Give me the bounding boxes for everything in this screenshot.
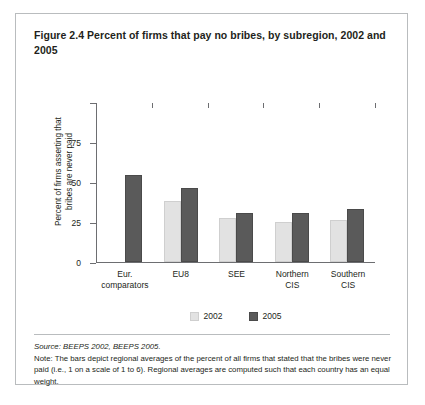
x-label-line2: CIS <box>285 280 299 290</box>
bar-2002-southern-cis <box>330 220 347 262</box>
legend-swatch-2005 <box>249 312 258 321</box>
x-axis-line <box>96 262 375 263</box>
y-tick-label-50: 50 <box>72 178 81 188</box>
figure-notes: Source: BEEPS 2002, BEEPS 2005. Note: Th… <box>34 341 392 387</box>
chart-plot-area: Percent of firms asserting that bribes a… <box>34 89 392 319</box>
bar-group-southern-cis <box>330 103 364 262</box>
bar-2005-northern-cis <box>292 213 309 262</box>
x-tick-0 <box>96 103 97 108</box>
y-tick-0: 0 <box>90 263 96 264</box>
y-tick-label-25: 25 <box>72 218 81 228</box>
x-tick-3 <box>263 103 264 108</box>
figure-title: Figure 2.4 Percent of firms that pay no … <box>34 28 389 58</box>
x-label-line1: Southern <box>331 269 366 279</box>
x-axis-labels: Eur. comparators EU8 SEE Northern CIS So… <box>97 269 376 291</box>
x-tick-4 <box>319 103 320 108</box>
figure-container: Figure 2.4 Percent of firms that pay no … <box>15 13 408 385</box>
bar-2002-see <box>219 218 236 261</box>
bar-2002-northern-cis <box>275 222 292 262</box>
source-text: Source: BEEPS 2002, BEEPS 2005. <box>34 341 392 353</box>
x-label-line1: EU8 <box>172 269 189 279</box>
bar-2002-eu8 <box>164 201 181 262</box>
bar-group-northern-cis <box>275 103 309 262</box>
y-tick-25: 25 <box>90 223 96 224</box>
bar-group-see <box>219 103 253 262</box>
note-text: Note: The bars depict regional averages … <box>34 353 392 388</box>
bar-2005-eur-comparators <box>125 175 142 261</box>
bar-2005-see <box>236 213 253 262</box>
x-label-northern-cis: Northern CIS <box>264 269 320 291</box>
y-tick-label-0: 0 <box>76 258 81 268</box>
legend-item-2005: 2005 <box>249 311 282 321</box>
x-label-eu8: EU8 <box>153 269 209 291</box>
x-label-see: SEE <box>209 269 265 291</box>
legend-swatch-2002 <box>190 312 199 321</box>
chart-axes: 0 25 50 75 <box>96 103 375 263</box>
x-label-line2: comparators <box>101 280 148 290</box>
x-tick-5 <box>375 103 376 108</box>
bar-2005-southern-cis <box>347 209 364 262</box>
y-tick-label-75: 75 <box>72 138 81 148</box>
chart-legend: 2002 2005 <box>96 311 375 321</box>
legend-label-2005: 2005 <box>263 311 282 321</box>
legend-item-2002: 2002 <box>190 311 223 321</box>
x-label-eur-comparators: Eur. comparators <box>97 269 153 291</box>
x-label-line1: SEE <box>228 269 245 279</box>
y-axis-title-line1: Percent of firms asserting that <box>54 117 63 226</box>
y-tick-50: 50 <box>90 183 96 184</box>
x-tick-2 <box>208 103 209 108</box>
bar-group-eu8 <box>164 103 198 262</box>
notes-divider <box>34 334 390 335</box>
x-label-line1: Eur. <box>117 269 132 279</box>
legend-label-2002: 2002 <box>204 311 223 321</box>
y-tick-75: 75 <box>90 143 96 144</box>
x-label-line2: CIS <box>341 280 355 290</box>
x-label-southern-cis: Southern CIS <box>320 269 376 291</box>
x-label-line1: Northern <box>276 269 309 279</box>
bar-groups <box>97 103 375 262</box>
bar-2005-eu8 <box>181 188 198 262</box>
x-tick-1 <box>152 103 153 108</box>
bar-group-eur-comparators <box>108 103 142 262</box>
